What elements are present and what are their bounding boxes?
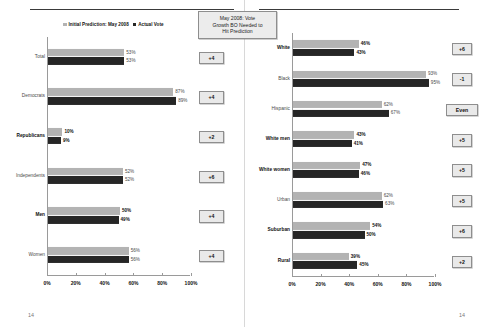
chart-bar-value-label: 93%	[428, 72, 437, 77]
chart-bar-pred: 93%	[293, 71, 426, 79]
chart-bar-value-label: 43%	[356, 133, 365, 138]
annotation-badge: +5	[452, 195, 472, 208]
chart-bar-actual: 43%	[293, 49, 354, 57]
axis-tick-label: 0%	[288, 281, 295, 287]
annotation-badge: +5	[452, 164, 472, 177]
axis-tick-label: 20%	[316, 281, 326, 287]
legend-label-actual: Actual Vote	[138, 22, 163, 27]
chart-row: Women56%56%	[48, 235, 191, 275]
legend-item-actual: Actual Vote	[133, 22, 164, 27]
chart-bar-actual: 9%	[48, 137, 61, 145]
annotation-badge: +6	[199, 171, 224, 184]
slide-right-top-rule	[259, 9, 459, 10]
chart-bar-actual: 46%	[293, 170, 359, 178]
axis-tick-label: 40%	[100, 280, 110, 286]
chart-row-label: Independents	[0, 173, 45, 179]
chart-bar-actual: 67%	[293, 109, 389, 117]
chart-row: Hispanic62%67%	[293, 94, 435, 124]
chart-row: White women47%46%	[293, 155, 435, 185]
axis-tick-mark	[349, 274, 350, 277]
axis-tick-label: 60%	[128, 280, 138, 286]
chart-bar-pred: 46%	[293, 40, 359, 48]
chart-bar-value-label: 87%	[175, 90, 184, 95]
axis-tick-mark	[76, 273, 77, 276]
slide-left-top-rule	[30, 9, 234, 10]
chart-bar-value-label: 56%	[131, 248, 140, 253]
chart-left-x-axis: 0%20%40%60%80%100%	[47, 275, 190, 276]
chart-row: White46%43%	[293, 33, 435, 63]
chart-bar-value-label: 56%	[131, 257, 140, 262]
chart-bar-value-label: 50%	[122, 209, 131, 214]
axis-tick-mark	[292, 274, 293, 277]
annotation-badge: -1	[452, 73, 472, 86]
legend-label-prediction: Initial Prediction: May 2008	[68, 22, 128, 27]
chart-bar-value-label: 49%	[121, 217, 130, 222]
page-number-left: 14	[28, 312, 34, 318]
chart-bar-actual: 89%	[48, 97, 176, 105]
chart-bar-pred: 43%	[293, 131, 354, 139]
chart-bar-value-label: 63%	[385, 202, 394, 207]
chart-right-x-axis: 0%20%40%60%80%100%	[292, 276, 434, 277]
chart-right-plot-area: White46%43%Black93%95%Hispanic62%67%Whit…	[292, 33, 435, 276]
chart-row-label: Total	[0, 54, 45, 60]
chart-bar-value-label: 89%	[178, 98, 187, 103]
axis-tick-label: 100%	[185, 280, 198, 286]
axis-tick-mark	[406, 274, 407, 277]
chart-row: Republicans10%9%	[48, 116, 191, 156]
chart-row-label: Rural	[244, 258, 290, 264]
chart-bar-value-label: 41%	[354, 141, 363, 146]
chart-bar-value-label: 43%	[356, 50, 365, 55]
chart-bar-value-label: 52%	[125, 169, 134, 174]
chart-bar-value-label: 95%	[431, 80, 440, 85]
chart-bar-pred: 53%	[48, 49, 124, 57]
chart-bar-pred: 50%	[48, 207, 120, 215]
axis-tick-mark	[435, 274, 436, 277]
chart-bar-actual: 56%	[48, 256, 129, 264]
chart-row-label: Suburban	[244, 228, 290, 234]
axis-tick-label: 0%	[43, 280, 50, 286]
chart-bar-value-label: 46%	[361, 41, 370, 46]
chart-row: Democrats87%89%	[48, 77, 191, 117]
chart-bar-value-label: 54%	[372, 224, 381, 229]
chart-bar-actual: 41%	[293, 140, 352, 148]
chart-row-label: White women	[244, 167, 290, 173]
legend-item-prediction: Initial Prediction: May 2008	[63, 22, 129, 27]
chart-bar-pred: 52%	[48, 168, 123, 176]
chart-bar-actual: 95%	[293, 79, 429, 87]
chart-bar-pred: 56%	[48, 247, 129, 255]
chart-bar-value-label: 53%	[126, 59, 135, 64]
chart-row: Independents52%52%	[48, 156, 191, 196]
chart-row-label: Men	[0, 213, 45, 219]
annotation-badge: +5	[452, 134, 472, 147]
callout-box: May 2008: Vote Growth BO Needed to Hit P…	[198, 11, 277, 39]
chart-row: Black93%95%	[293, 63, 435, 93]
chart-bar-pred: 10%	[48, 128, 62, 136]
chart-row-label: Women	[0, 252, 45, 258]
chart-bar-pred: 54%	[293, 222, 370, 230]
annotation-badge: Even	[446, 104, 478, 117]
chart-bar-value-label: 62%	[384, 102, 393, 107]
chart-bar-pred: 62%	[293, 101, 382, 109]
axis-tick-label: 20%	[71, 280, 81, 286]
chart-bar-value-label: 52%	[125, 178, 134, 183]
chart-bar-actual: 49%	[48, 216, 119, 224]
axis-tick-label: 80%	[157, 280, 167, 286]
callout-line-3: Hit Prediction	[201, 28, 274, 35]
chart-bar-actual: 52%	[48, 176, 123, 184]
annotation-badge: +4	[199, 250, 224, 263]
chart-row-label: Democrats	[0, 94, 45, 100]
axis-tick-mark	[47, 273, 48, 276]
annotation-badge: +4	[199, 52, 224, 65]
chart-row-label: White	[244, 45, 290, 51]
chart-bar-value-label: 67%	[391, 111, 400, 116]
axis-tick-mark	[105, 273, 106, 276]
axis-tick-mark	[162, 273, 163, 276]
callout-line-2: Growth BO Needed to	[201, 22, 274, 29]
callout-line-1: May 2008: Vote	[201, 15, 274, 22]
axis-tick-mark	[191, 273, 192, 276]
axis-tick-mark	[133, 273, 134, 276]
annotation-badge: +6	[452, 225, 472, 238]
chart-bar-value-label: 62%	[384, 193, 393, 198]
chart-row: Suburban54%50%	[293, 215, 435, 245]
annotation-badge: +2	[452, 256, 472, 269]
